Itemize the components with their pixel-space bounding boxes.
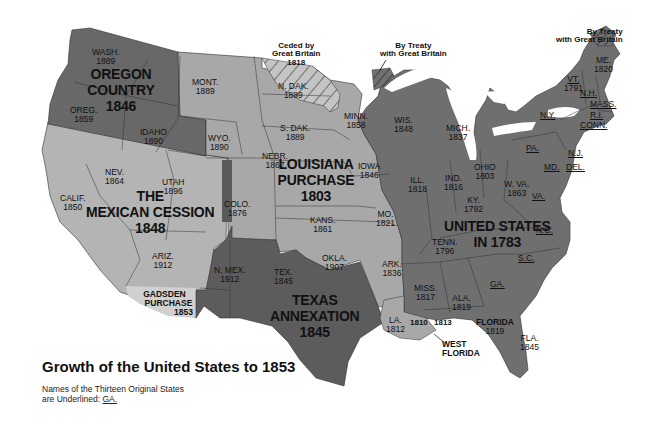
- state-wva: W. VA.1863: [504, 180, 529, 198]
- utah-year: 1896: [162, 187, 185, 196]
- louisiana-name: LOUISIANA PURCHASE: [276, 156, 356, 188]
- idaho-year: 1890: [140, 137, 167, 146]
- state-conn: CONN.: [580, 121, 607, 130]
- state-colo: COLO.1876: [224, 200, 250, 218]
- wash-year: 1889: [92, 57, 120, 66]
- ala-year: 1819: [452, 303, 471, 312]
- ark-year: 1836: [382, 269, 402, 278]
- okla-year: 1907: [322, 263, 347, 272]
- label-west-florida: WEST FLORIDA: [442, 340, 480, 358]
- legend-line2-prefix: are Underlined:: [42, 394, 102, 404]
- iowa-year: 1846: [358, 171, 380, 180]
- state-ark: ARK.1836: [382, 260, 402, 278]
- label-louisiana-purchase: LOUISIANA PURCHASE 1803: [276, 156, 356, 204]
- label-texas-annexation: TEXAS ANNEXATION 1845: [270, 292, 360, 340]
- mexican-line2: MEXICAN CESSION: [86, 204, 214, 220]
- tex-year: 1845: [274, 277, 293, 286]
- ky-year: 1792: [464, 205, 483, 214]
- state-utah: UTAH1896: [162, 178, 185, 196]
- label-west-florida-1813: 1813: [434, 319, 452, 327]
- state-kans: KANS.1861: [310, 216, 336, 234]
- legend-example: GA.: [102, 394, 117, 404]
- legend-line1: Names of the Thirteen Original States: [42, 384, 184, 394]
- map-legend: Names of the Thirteen Original States ar…: [42, 384, 184, 404]
- annotation-treaty-mid: By Treaty with Great Britain: [380, 42, 447, 59]
- state-nev: NEV.1864: [105, 168, 124, 186]
- us1783-line2: IN 1783: [444, 234, 551, 250]
- state-wash: WASH.1889: [92, 48, 120, 66]
- florida-year: 1819: [476, 327, 514, 336]
- texas-line1: TEXAS: [270, 292, 360, 308]
- state-md: MD.: [544, 163, 560, 172]
- state-sc: S.C.: [518, 254, 535, 263]
- sdak-year: 1889: [280, 133, 310, 142]
- label-mexican-cession: THE MEXICAN CESSION 1848: [86, 188, 214, 236]
- label-united-states-1783: UNITED STATES IN 1783: [444, 218, 551, 250]
- treaty-ne-line2: with Great Britain: [556, 36, 623, 44]
- tenn-year: 1796: [432, 247, 458, 256]
- state-okla: OKLA.1907: [322, 254, 347, 272]
- label-florida-1819: FLORIDA 1819: [476, 318, 514, 336]
- texas-year: 1845: [270, 324, 360, 340]
- ariz-year: 1912: [152, 261, 174, 270]
- miss-year: 1817: [414, 293, 437, 302]
- texas-line2: ANNEXATION: [270, 308, 360, 324]
- state-ind: IND.1816: [444, 174, 463, 192]
- state-nc: N.C.: [536, 226, 553, 235]
- state-tex: TEX.1845: [274, 268, 293, 286]
- kans-year: 1861: [310, 225, 336, 234]
- state-ny: N.Y.: [540, 111, 555, 120]
- ohio-year: 1803: [474, 172, 496, 181]
- nev-year: 1864: [105, 177, 124, 186]
- wyo-year: 1890: [208, 143, 231, 152]
- louisiana-year: 1803: [276, 188, 356, 204]
- state-nj: N.J.: [568, 149, 583, 158]
- ill-year: 1818: [408, 185, 427, 194]
- gadsden-year: 1853: [136, 308, 193, 317]
- state-idaho: IDAHO1890: [140, 128, 167, 146]
- state-fla: FLA.1845: [520, 334, 539, 352]
- label-gadsden-purchase: GADSDEN PURCHASE 1853: [136, 290, 193, 317]
- wva-year: 1863: [504, 189, 529, 198]
- state-pa: PA.: [526, 144, 539, 153]
- colo-year: 1876: [224, 209, 250, 218]
- vt-year: 1791: [564, 84, 583, 93]
- state-calif: CALIF.1850: [60, 194, 86, 212]
- ind-year: 1816: [444, 183, 463, 192]
- legend-line2: are Underlined: GA.: [42, 394, 184, 404]
- oregon-name: OREGON COUNTRY: [86, 66, 156, 98]
- state-miss: MISS.1817: [414, 284, 437, 302]
- mich-year: 1837: [446, 133, 470, 142]
- state-del: DEL.: [566, 163, 585, 172]
- annotation-ceded-by-great-britain: Ceded by Great Britain 1818: [272, 42, 320, 67]
- state-tenn: TENN.1796: [432, 238, 458, 256]
- us1783-line1: UNITED STATES: [444, 218, 551, 234]
- state-vt: VT.1791: [564, 75, 583, 93]
- state-mont: MONT.1889: [192, 78, 218, 96]
- mexican-year: 1848: [86, 220, 214, 236]
- treaty-mid-line2: with Great Britain: [380, 50, 447, 58]
- state-ala: ALA.1819: [452, 294, 471, 312]
- ceded-year: 1818: [272, 59, 320, 67]
- state-nebr: NEBR.1867: [262, 152, 288, 170]
- state-mo: MO.1821: [376, 210, 395, 228]
- state-wyo: WYO.1890: [208, 134, 231, 152]
- mexican-line1: THE: [86, 188, 214, 204]
- west-florida-line2: FLORIDA: [442, 349, 480, 358]
- mo-year: 1821: [376, 219, 395, 228]
- wis-year: 1848: [394, 125, 413, 134]
- state-va: VA.: [532, 192, 545, 201]
- state-sdak: S. DAK.1889: [280, 124, 310, 142]
- nmex-year: 1912: [214, 275, 246, 284]
- state-mass: MASS.: [590, 100, 616, 109]
- map-title: Growth of the United States to 1853: [42, 358, 295, 375]
- state-oreg: OREG.1859: [70, 106, 97, 124]
- me-year: 1820: [594, 65, 613, 74]
- calif-year: 1850: [60, 203, 86, 212]
- mont-year: 1889: [192, 87, 218, 96]
- state-ohio: OHIO1803: [474, 163, 496, 181]
- minn-year: 1858: [344, 121, 368, 130]
- state-la: LA.1812: [386, 316, 405, 334]
- state-ariz: ARIZ.1912: [152, 252, 174, 270]
- fla-year: 1845: [520, 343, 539, 352]
